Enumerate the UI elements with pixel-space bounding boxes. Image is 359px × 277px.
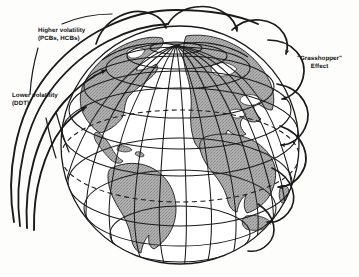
label-higher-volatility: Higher volatility (PCBs, HCBs) [38, 27, 85, 43]
figure-canvas: Higher volatility (PCBs, HCBs) Lower vol… [0, 0, 359, 277]
leader-higher-volatility-2 [62, 14, 112, 24]
label-higher-volatility-line1: Higher volatility [38, 27, 85, 34]
label-grasshopper-effect: "Grasshopper" Effect [297, 55, 342, 71]
label-grasshopper-line1: "Grasshopper" [297, 55, 342, 62]
label-lower-volatility-line1: Lower volatility [12, 92, 58, 99]
globe [61, 26, 299, 270]
leader-higher-volatility [30, 48, 38, 94]
label-lower-volatility: Lower volatility (DDT) [12, 92, 58, 108]
label-higher-volatility-line2: (PCBs, HCBs) [38, 35, 85, 43]
label-grasshopper-line2: Effect [297, 63, 342, 71]
label-lower-volatility-line2: (DDT) [12, 100, 58, 108]
